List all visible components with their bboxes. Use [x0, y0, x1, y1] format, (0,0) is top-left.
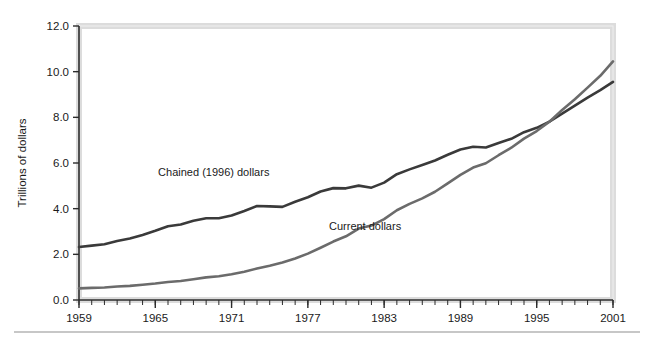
x-tick-label: 1971 [219, 312, 245, 324]
x-tick-label: 1995 [524, 312, 550, 324]
plot-frame [79, 26, 613, 300]
x-tick-label: 1965 [142, 312, 168, 324]
y-tick-label: 8.0 [53, 111, 69, 123]
x-tick-label: 1983 [371, 312, 397, 324]
y-tick-label: 10.0 [47, 66, 69, 78]
x-tick-label: 1977 [295, 312, 321, 324]
x-tick-label: 1989 [448, 312, 474, 324]
series-label: Chained (1996) dollars [158, 166, 270, 178]
y-axis-title: Trillions of dollars [16, 118, 28, 207]
series-label: Current dollars [329, 220, 402, 232]
x-tick-label: 2001 [600, 312, 626, 324]
x-axis-tick-labels: 19591965197119771983198919952001 [66, 312, 626, 324]
chart-figure: 0.02.04.06.08.010.012.0 1959196519711977… [0, 0, 654, 339]
y-tick-label: 12.0 [47, 20, 69, 32]
y-tick-label: 0.0 [53, 294, 69, 306]
y-axis-tick-labels: 0.02.04.06.08.010.012.0 [47, 20, 69, 306]
x-tick-label: 1959 [66, 312, 92, 324]
y-tick-label: 6.0 [53, 157, 69, 169]
y-tick-label: 2.0 [53, 248, 69, 260]
y-tick-label: 4.0 [53, 203, 69, 215]
gdp-line-chart: 0.02.04.06.08.010.012.0 1959196519711977… [0, 0, 654, 339]
